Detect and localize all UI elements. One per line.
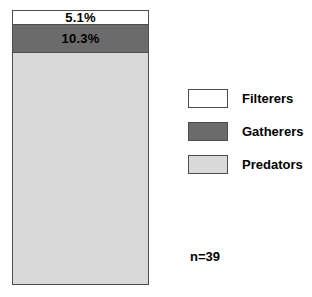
bar-segment-label-filterers: 5.1% — [65, 11, 95, 24]
legend-item-predators: Predators — [188, 148, 308, 181]
legend-label-gatherers: Gatherers — [242, 125, 303, 138]
legend-swatch-predators — [188, 155, 228, 174]
bar-segment-filterers: 5.1% — [13, 11, 148, 25]
legend-swatch-gatherers — [188, 122, 228, 141]
stacked-bar-chart: 5.1% 10.3% — [12, 10, 149, 285]
legend: Filterers Gatherers Predators — [188, 82, 308, 181]
bar-segment-predators — [13, 53, 148, 284]
legend-item-gatherers: Gatherers — [188, 115, 308, 148]
legend-label-filterers: Filterers — [242, 92, 293, 105]
legend-item-filterers: Filterers — [188, 82, 308, 115]
legend-label-predators: Predators — [242, 158, 303, 171]
legend-swatch-filterers — [188, 89, 228, 108]
chart-canvas: 5.1% 10.3% Filterers Gatherers Predators… — [0, 0, 312, 297]
bar-segment-gatherers: 10.3% — [13, 25, 148, 53]
sample-size-annotation: n=39 — [190, 250, 220, 263]
bar-segment-label-gatherers: 10.3% — [62, 32, 100, 45]
